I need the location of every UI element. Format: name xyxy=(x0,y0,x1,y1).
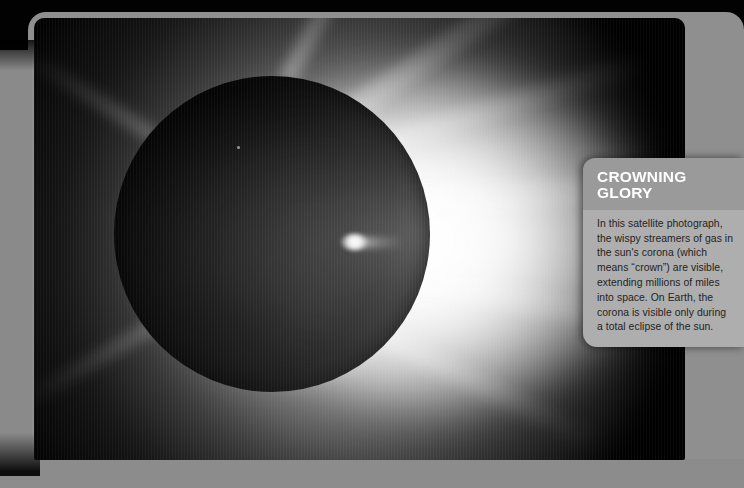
chromosphere-ring xyxy=(112,74,432,394)
callout-body-band: In this satellite photograph, the wispy … xyxy=(583,210,744,347)
paper-bottom-margin xyxy=(0,459,744,488)
paper-top-left-shadow xyxy=(0,40,36,84)
callout-body-text: In this satellite photograph, the wispy … xyxy=(597,217,734,335)
caption-callout: CROWNING GLORY In this satellite photogr… xyxy=(583,158,744,347)
callout-title-band: CROWNING GLORY xyxy=(583,158,710,210)
page-root: CROWNING GLORY In this satellite photogr… xyxy=(0,0,744,488)
film-dust-speck xyxy=(237,146,240,149)
paper-left-margin xyxy=(0,50,32,470)
callout-title-notch xyxy=(710,158,744,210)
solar-prominence xyxy=(341,234,367,250)
callout-title: CROWNING GLORY xyxy=(597,169,698,201)
